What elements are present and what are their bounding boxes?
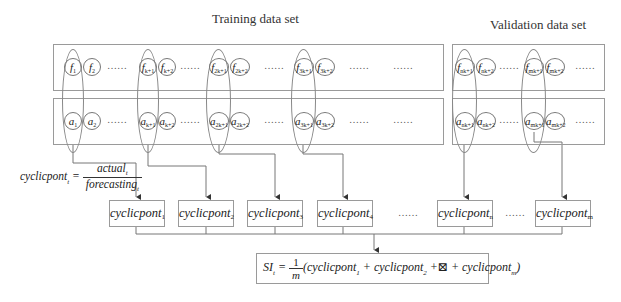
- cell-a1: a1: [64, 112, 82, 130]
- cell-fk2: fk+2: [158, 58, 176, 76]
- cell-fmk1: fmk+1: [524, 58, 544, 76]
- cell-fnk1: fnk+1: [455, 58, 475, 76]
- cyclicpont-box-1: cyclicpont1: [109, 200, 165, 227]
- si-formula-box: SIt = 1 m (cyclicpont1 + cyclicpont2 +⊠ …: [256, 253, 489, 284]
- cyclicpont-box-4: cyclicpont4: [317, 200, 373, 227]
- cell-fmk2: fmk+2: [545, 58, 565, 76]
- ellipsis: ……: [398, 207, 418, 218]
- ellipsis: ……: [264, 60, 284, 71]
- cell-ak2: ak+2: [158, 112, 176, 130]
- cell-f2k2: f2k+2: [230, 58, 250, 76]
- ellipsis: ……: [264, 114, 284, 125]
- cell-a3k1: a3k+1: [294, 112, 314, 130]
- ellipsis: ……: [180, 114, 200, 125]
- ellipsis: ……: [107, 114, 127, 125]
- cell-f2k1: f2k+1: [209, 58, 229, 76]
- cyclicpont-box-m: cyclicpontm: [535, 200, 591, 227]
- cell-fnk2: fnk+2: [476, 58, 496, 76]
- cyclicpont-box-3: cyclicpont3: [247, 200, 303, 227]
- cell-f3k2: f3k+2: [315, 58, 335, 76]
- ellipsis: ……: [575, 114, 595, 125]
- cell-ank1: ank+1: [455, 112, 475, 130]
- cyclicpont-box-2: cyclicpont2: [178, 200, 234, 227]
- ellipsis: ……: [393, 60, 413, 71]
- cell-amk1: amk+1: [524, 112, 544, 130]
- ellipsis: ……: [107, 60, 127, 71]
- cell-a3k2: a3k+2: [315, 112, 335, 130]
- cell-f1: f1: [64, 58, 82, 76]
- si-fraction: 1 m: [289, 256, 303, 281]
- ellipsis: ……: [349, 60, 369, 71]
- fraction: actualt forecastingt: [83, 162, 142, 194]
- cell-a2k2: a2k+2: [230, 112, 250, 130]
- cell-amk2: amk+2: [545, 112, 565, 130]
- ellipsis: ……: [499, 114, 519, 125]
- cyclicpont-box-n: cyclicpontn: [437, 200, 493, 227]
- cell-ank2: ank+2: [476, 112, 496, 130]
- cell-fk1: fk+1: [139, 58, 157, 76]
- ellipsis: ……: [499, 60, 519, 71]
- ellipsis: ……: [180, 60, 200, 71]
- ellipsis: ……: [393, 114, 413, 125]
- cell-ak1: ak+1: [139, 112, 157, 130]
- ellipsis: ……: [349, 114, 369, 125]
- cell-f3k1: f3k+1: [294, 58, 314, 76]
- cyclicpont-formula: cyclicpontt = actualt forecastingt: [20, 162, 142, 194]
- cell-a2k1: a2k+1: [209, 112, 229, 130]
- cell-f2: f2: [83, 58, 101, 76]
- ellipsis: ……: [505, 207, 525, 218]
- ellipsis: ……: [575, 60, 595, 71]
- cell-a2: a2: [83, 112, 101, 130]
